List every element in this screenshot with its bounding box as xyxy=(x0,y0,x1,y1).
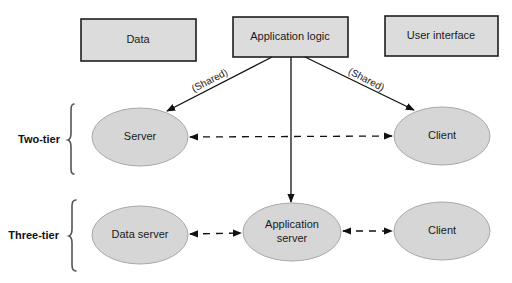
shared-label-right: (Shared) xyxy=(347,66,387,93)
client-three-tier-label: Client xyxy=(428,224,456,236)
client-two-tier-label: Client xyxy=(428,129,456,141)
two-tier-label: Two-tier xyxy=(18,133,61,145)
application-server-node: Application server xyxy=(243,203,341,261)
arrow-applogic-to-client xyxy=(305,57,414,110)
server-node: Server xyxy=(92,108,188,166)
three-tier-label: Three-tier xyxy=(8,229,59,241)
data-server-node: Data server xyxy=(92,206,188,264)
client-three-tier-node: Client xyxy=(394,202,490,260)
application-server-label-line1: Application xyxy=(265,218,319,230)
data-box: Data xyxy=(81,19,196,61)
user-interface-box: User interface xyxy=(385,16,498,56)
two-tier-brace xyxy=(68,104,74,174)
shared-label-left: (Shared) xyxy=(190,67,230,94)
client-two-tier-node: Client xyxy=(394,107,490,165)
data-server-label: Data server xyxy=(112,228,169,240)
three-tier-brace xyxy=(69,200,76,271)
server-label: Server xyxy=(124,130,157,142)
application-server-label-line2: server xyxy=(277,232,308,244)
data-box-label: Data xyxy=(126,33,150,45)
application-logic-box: Application logic xyxy=(233,17,348,57)
user-interface-box-label: User interface xyxy=(407,29,475,41)
application-logic-box-label: Application logic xyxy=(250,30,330,42)
arrow-applogic-to-server xyxy=(167,57,272,111)
dashed-dataserver-appserver xyxy=(190,233,241,234)
tier-architecture-diagram: Data Application logic User interface (S… xyxy=(0,0,512,283)
